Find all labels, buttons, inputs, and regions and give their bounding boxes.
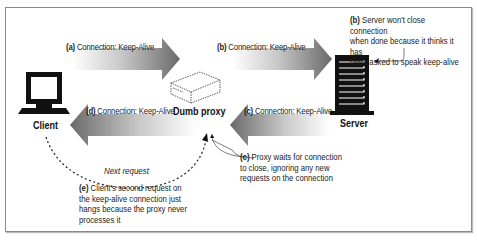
arrow-b-tag: (b) xyxy=(217,42,226,52)
note-c: (c) Proxy waits for connection to close,… xyxy=(240,152,342,184)
next-request-curve xyxy=(46,137,206,188)
note-e-line3: hangs because the proxy never xyxy=(79,204,187,215)
arrow-d-tag: (d) xyxy=(86,106,95,116)
note-b-line1: Server won't close connection xyxy=(350,15,425,36)
arrow-d-label: (d) Connection: Keep-Alive xyxy=(86,106,174,116)
arrow-d-text: Connection: Keep-Alive xyxy=(97,106,174,116)
arrow-a-tag: (a) xyxy=(66,42,75,52)
note-c-line2: to close, ignoring any new xyxy=(240,163,342,174)
note-b-tag: (b) xyxy=(350,15,360,25)
next-request-label: Next request xyxy=(104,166,149,176)
note-e-line4: processes it xyxy=(79,215,187,226)
note-e-line2: the keep-alive connection just xyxy=(79,194,187,205)
arrow-c-tag: (c) xyxy=(244,106,253,116)
arrow-b-label: (b) Connection: Keep-Alive xyxy=(217,42,305,52)
note-e: (e) Client's second request on the keep-… xyxy=(79,183,187,225)
note-c-tag: (c) xyxy=(240,152,249,162)
note-b-line2: when done because it thinks it has xyxy=(350,36,459,57)
arrow-c-text: Connection: Keep-Alive xyxy=(255,106,332,116)
note-c-line1: Proxy waits for connection xyxy=(252,152,342,162)
proxy-label: Dumb proxy xyxy=(173,106,226,117)
arrow-a-label: (a) Connection: Keep-Alive xyxy=(66,42,154,52)
server-label: Server xyxy=(340,118,368,129)
note-c-line3: requests on the connection xyxy=(240,173,342,184)
note-b-line3: been asked to speak keep-alive xyxy=(350,57,459,68)
next-request-arrowhead xyxy=(202,133,208,142)
proxy-box-icon xyxy=(171,72,220,103)
arrow-c-label: (c) Connection: Keep-Alive xyxy=(244,106,332,116)
monitor-icon xyxy=(18,72,70,114)
arrow-b-text: Connection: Keep-Alive xyxy=(228,42,305,52)
arrow-a-text: Connection: Keep-Alive xyxy=(77,42,154,52)
client-label: Client xyxy=(33,120,58,131)
note-e-line1: Client's second request on xyxy=(91,183,182,193)
note-b: (b) Server won't close connection when d… xyxy=(350,15,459,68)
note-e-tag: (e) xyxy=(79,183,88,193)
